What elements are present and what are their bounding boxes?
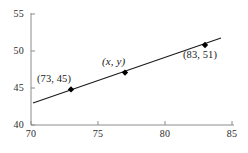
data-point-marker-1 bbox=[68, 86, 74, 92]
y-tick-label-55: 55 bbox=[4, 8, 24, 19]
x-tick-label-85: 85 bbox=[220, 128, 244, 139]
x-tick-marks bbox=[31, 121, 232, 125]
point-annotation-83-51: (83, 51) bbox=[183, 49, 217, 60]
y-tick-marks bbox=[31, 14, 35, 125]
x-tick-label-75: 75 bbox=[86, 128, 110, 139]
scatter-chart: 55 50 45 40 70 75 80 85 (73, 45) (x, y) … bbox=[0, 0, 248, 153]
x-tick-label-80: 80 bbox=[153, 128, 177, 139]
y-tick-label-45: 45 bbox=[4, 82, 24, 93]
y-tick-label-50: 50 bbox=[4, 45, 24, 56]
x-tick-label-70: 70 bbox=[19, 128, 43, 139]
trend-line bbox=[33, 38, 221, 103]
point-annotation-x-y: (x, y) bbox=[102, 55, 125, 67]
point-annotation-73-45: (73, 45) bbox=[37, 73, 71, 84]
